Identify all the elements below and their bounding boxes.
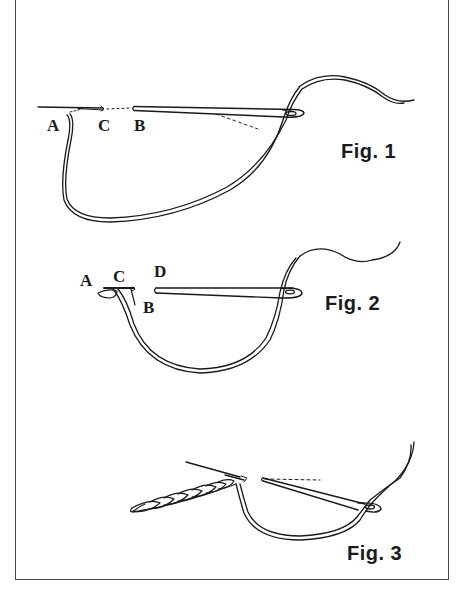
fig1-point-c-label: C (98, 117, 110, 134)
fig3-caption: Fig. 3 (347, 542, 402, 565)
fig1-stitch-line (38, 107, 103, 108)
stitch-illustration (0, 0, 464, 608)
fig2-caption: Fig. 2 (325, 292, 380, 315)
fig1-dotted-guide (107, 108, 130, 109)
fig3-stem-stitch (131, 480, 236, 512)
fig2-point-b-label: B (143, 299, 154, 316)
fig2-point-d-label: D (154, 263, 166, 280)
fig2-point-a-label: A (80, 272, 92, 289)
fig1-needle (133, 107, 304, 118)
fig1-point-b-label: B (134, 117, 145, 134)
fig1-caption: Fig. 1 (341, 140, 396, 163)
fig3-drawing (131, 442, 414, 540)
fig2-point-c-label: C (113, 268, 125, 285)
fig3-needle (262, 478, 382, 512)
fig1-point-a-label: A (47, 117, 59, 134)
fig3-thread (236, 442, 414, 540)
